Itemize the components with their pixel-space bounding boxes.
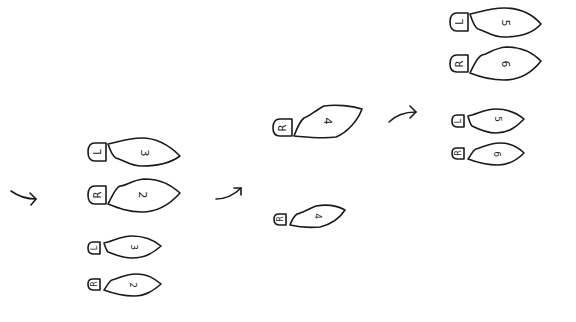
heel-label: R bbox=[92, 191, 103, 198]
step-number: 3 bbox=[129, 244, 139, 250]
footprint-right-step-4-large: R 4 bbox=[273, 105, 362, 138]
heel-label: R bbox=[454, 150, 463, 156]
step-number: 5 bbox=[493, 116, 503, 122]
arrow-right-icon bbox=[389, 106, 416, 122]
footstep-diagram: L 3 R 2 L 3 R 2 R 4 R 4 bbox=[0, 0, 576, 322]
step-number: 2 bbox=[136, 192, 149, 199]
heel-label: R bbox=[276, 216, 285, 222]
footprint-right-step-4-small: R 4 bbox=[274, 205, 345, 227]
footprint-left-step-5-small: L 5 bbox=[452, 109, 524, 133]
step-number: 4 bbox=[321, 118, 334, 125]
step-number: 5 bbox=[499, 20, 512, 27]
heel-label: L bbox=[454, 19, 465, 25]
footprint-right-step-6-small: R 6 bbox=[452, 143, 524, 165]
step-number: 4 bbox=[313, 213, 323, 219]
heel-label: R bbox=[277, 124, 288, 131]
footprint-left-step-5-large: L 5 bbox=[450, 8, 541, 37]
heel-label: L bbox=[454, 118, 463, 123]
footprint-left-step-3-large: L 3 bbox=[88, 138, 180, 166]
step-number: 6 bbox=[492, 151, 502, 157]
step-number: 6 bbox=[499, 61, 512, 68]
step-number: 2 bbox=[128, 282, 138, 288]
footprint-right-step-2-small: R 2 bbox=[88, 274, 161, 296]
footprint-right-step-2-large: R 2 bbox=[88, 179, 180, 212]
footprint-left-step-3-small: L 3 bbox=[88, 236, 161, 258]
heel-label: L bbox=[92, 149, 103, 155]
arrow-up-right-icon bbox=[216, 188, 241, 199]
step-number: 3 bbox=[138, 150, 151, 157]
heel-label: L bbox=[90, 245, 99, 250]
arrow-right-icon bbox=[11, 191, 36, 205]
footprint-right-step-6-large: R 6 bbox=[450, 47, 541, 80]
heel-label: R bbox=[90, 281, 99, 287]
heel-label: R bbox=[454, 60, 465, 67]
